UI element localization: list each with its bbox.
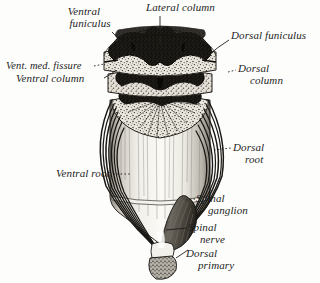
label-lateral-column: Lateral column — [146, 2, 215, 14]
label-spinal-ganglion: Spinal ganglion — [196, 193, 260, 217]
label-dorsal-root-line2: root — [233, 154, 283, 166]
spinal-cord-diagram: Ventral funiculus Lateral column Dorsal … — [0, 0, 320, 283]
label-ventral-column: Ventral column — [16, 73, 84, 85]
label-dorsal-primary-line1: Dorsal — [186, 247, 217, 259]
label-spinal-ganglion-line2: ganglion — [196, 205, 260, 217]
label-ventral-funiculus-line1: Ventral — [68, 5, 100, 17]
label-dorsal-column: Dorsal column — [238, 63, 298, 87]
label-dorsal-primary-line2: primary — [186, 260, 248, 272]
label-dorsal-column-line2: column — [238, 75, 298, 87]
label-ventral-funiculus: Ventral funiculus — [53, 6, 115, 30]
label-dorsal-root: Dorsal root — [233, 142, 283, 166]
label-ventral-funiculus-line2: funiculus — [53, 18, 115, 30]
label-spinal-nerve-line2: nerve — [188, 234, 244, 246]
label-ventral-root: Ventral root — [56, 168, 110, 180]
label-dorsal-column-line1: Dorsal — [238, 62, 269, 74]
label-dorsal-funiculus: Dorsal funiculus — [231, 30, 306, 42]
label-spinal-nerve-line1: Spinal — [188, 221, 217, 233]
label-spinal-ganglion-line1: Spinal — [196, 192, 225, 204]
label-vent-med-fissure: Vent. med. fissure — [6, 60, 82, 71]
label-dorsal-primary: Dorsal primary — [186, 248, 248, 272]
label-dorsal-root-line1: Dorsal — [233, 141, 264, 153]
label-spinal-nerve: Spinal nerve — [188, 222, 244, 246]
